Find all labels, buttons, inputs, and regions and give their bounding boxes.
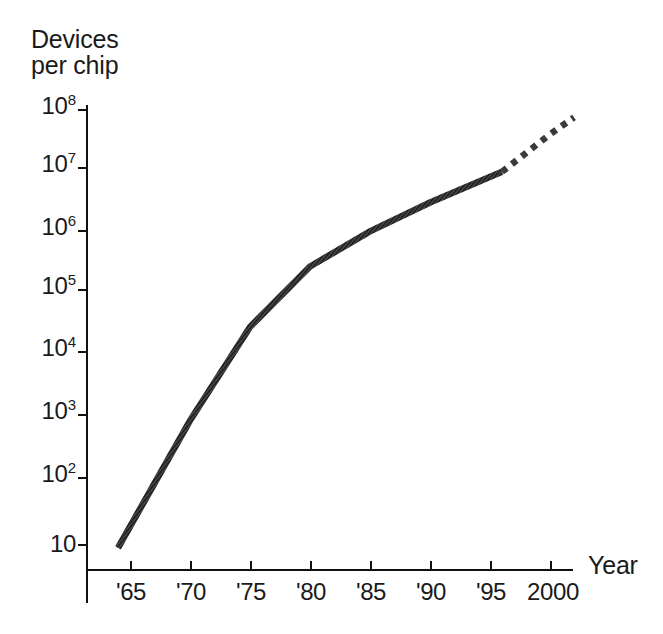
x-axis-line <box>86 569 573 571</box>
y-axis-title-line-2: per chip <box>31 52 119 78</box>
x-tick-mark-2000 <box>550 561 552 570</box>
x-tick-label-1970: '70 <box>176 578 206 606</box>
x-tick-label-1975: '75 <box>236 578 266 606</box>
x-tick-mark-1995 <box>490 561 492 570</box>
y-tick-mark-1e3 <box>78 414 87 416</box>
series-line-historical <box>118 172 502 548</box>
y-axis-title-line-1: Devices <box>31 25 119 53</box>
y-tick-label-1e3: 103 <box>42 397 76 425</box>
y-tick-label-1e4: 104 <box>42 334 76 362</box>
y-tick-mark-1e1 <box>78 544 87 546</box>
series-line-projected <box>502 117 574 171</box>
x-tick-label-2000: 2000 <box>527 578 579 606</box>
x-tick-label-1990: '90 <box>416 578 446 606</box>
x-tick-mark-1980 <box>310 561 312 570</box>
y-tick-mark-1e2 <box>78 477 87 479</box>
x-tick-label-1985: '85 <box>356 578 386 606</box>
x-tick-mark-1975 <box>250 561 252 570</box>
y-tick-label-1e2: 102 <box>42 460 76 488</box>
y-tick-label-1e6: 106 <box>42 213 76 241</box>
x-tick-mark-1985 <box>370 561 372 570</box>
x-tick-label-1980: '80 <box>296 578 326 606</box>
y-tick-mark-1e5 <box>78 289 87 291</box>
x-axis-title: Year <box>588 551 638 580</box>
y-tick-mark-1e7 <box>78 167 87 169</box>
y-tick-mark-1e6 <box>78 230 87 232</box>
x-tick-label-1995: '95 <box>476 578 506 606</box>
y-tick-label-1e7: 107 <box>42 150 76 178</box>
x-tick-mark-1965 <box>130 561 132 570</box>
data-series-layer <box>0 0 663 634</box>
y-tick-mark-1e8 <box>78 109 87 111</box>
x-tick-mark-1970 <box>190 561 192 570</box>
chart-canvas: Devices per chip 108 107 106 105 104 <box>0 0 663 634</box>
x-tick-mark-1990 <box>430 561 432 570</box>
y-tick-mark-1e4 <box>78 351 87 353</box>
x-tick-label-1965: '65 <box>116 578 146 606</box>
y-axis-title: Devices per chip <box>31 26 119 78</box>
y-axis-line <box>86 105 88 603</box>
y-tick-label-1e1: 10 <box>50 530 76 558</box>
y-tick-label-1e8: 108 <box>42 92 76 120</box>
y-tick-label-1e5: 105 <box>42 272 76 300</box>
